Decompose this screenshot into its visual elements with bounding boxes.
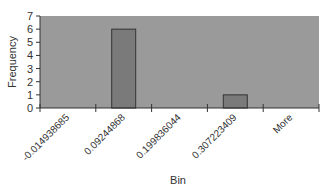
x-axis-title: Bin <box>170 174 186 186</box>
y-tick-label: 7 <box>27 10 33 22</box>
y-tick-label: 5 <box>27 36 33 48</box>
x-tick-label: 0.307223409 <box>190 111 239 160</box>
x-tick-label: 0.199836044 <box>134 111 183 160</box>
histogram-bar <box>223 95 247 108</box>
y-axis-title: Frequency <box>6 36 18 88</box>
y-tick-label: 1 <box>27 89 33 101</box>
y-tick-label: 0 <box>27 102 33 114</box>
y-tick-label: 3 <box>27 63 33 75</box>
histogram-chart: 01234567 -0.0149386850.092448680.1998360… <box>0 0 329 195</box>
x-axis: -0.0149386850.092448680.1998360440.30722… <box>20 104 319 163</box>
y-tick-label: 6 <box>27 23 33 35</box>
x-tick-label: More <box>271 111 295 135</box>
y-axis: 01234567 <box>27 10 40 114</box>
y-tick-label: 2 <box>27 76 33 88</box>
x-tick-label: -0.014938685 <box>20 111 72 163</box>
histogram-bar <box>112 29 136 108</box>
plot-area <box>40 16 319 108</box>
y-tick-label: 4 <box>27 49 33 61</box>
x-tick-label: 0.09244868 <box>82 111 127 156</box>
